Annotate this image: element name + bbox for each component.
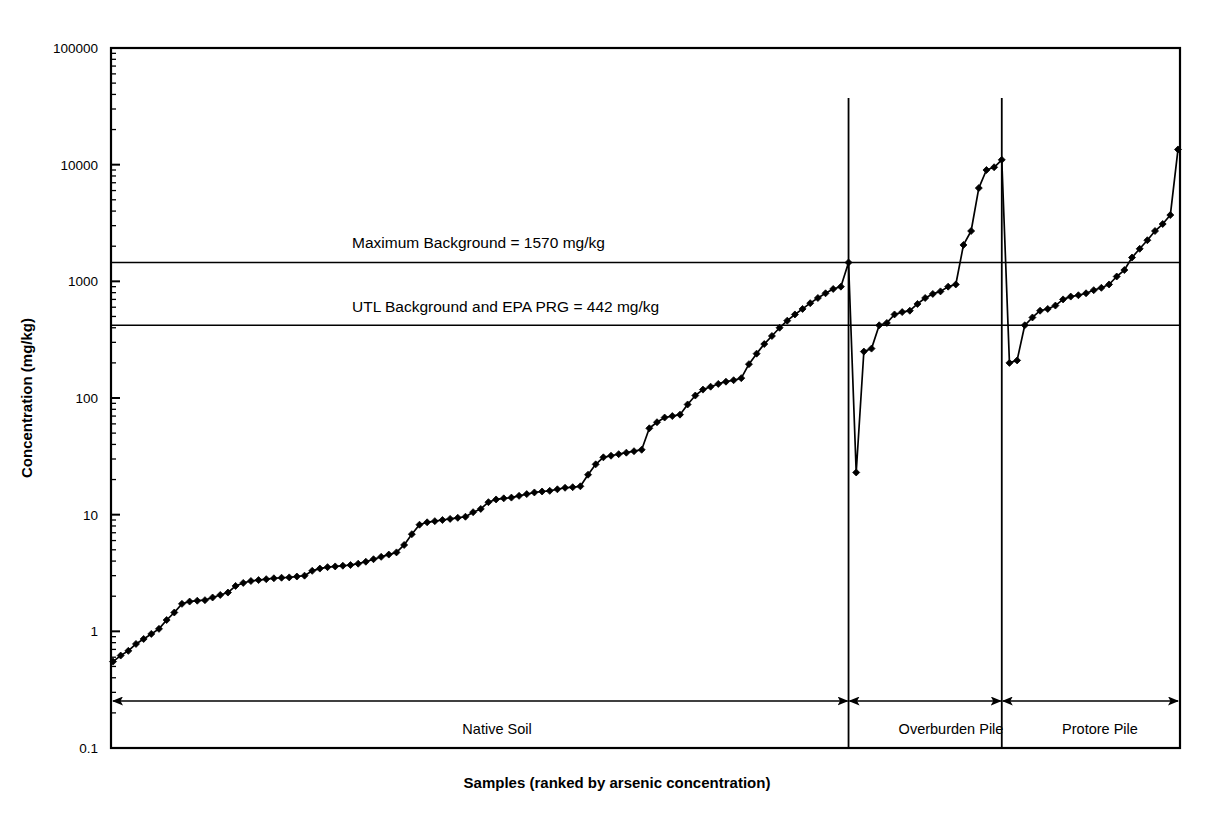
y-tick-label: 100000	[53, 41, 98, 56]
y-tick-label: 1	[90, 624, 98, 639]
utl-background-annotation: UTL Background and EPA PRG = 442 mg/kg	[352, 298, 659, 315]
chart-background	[0, 0, 1212, 813]
y-axis-title: Concentration (mg/kg)	[18, 318, 35, 478]
zone-label-native-soil: Native Soil	[462, 721, 531, 737]
chart-figure: 1000001000010001001010.1 Concentration (…	[0, 0, 1212, 813]
y-tick-label: 10	[83, 508, 98, 523]
zone-label-overburden-pile: Overburden Pile	[899, 721, 1004, 737]
arsenic-concentration-chart: 1000001000010001001010.1 Concentration (…	[0, 0, 1212, 813]
y-tick-label: 10000	[60, 158, 98, 173]
zone-label-protore-pile: Protore Pile	[1062, 721, 1138, 737]
max-background-annotation: Maximum Background = 1570 mg/kg	[352, 234, 605, 251]
y-tick-label: 0.1	[79, 741, 98, 756]
x-axis-title: Samples (ranked by arsenic concentration…	[464, 774, 771, 791]
y-tick-label: 100	[75, 391, 98, 406]
y-tick-label: 1000	[68, 274, 98, 289]
